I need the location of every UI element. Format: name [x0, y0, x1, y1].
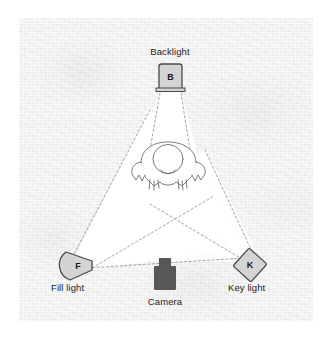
camera-label: Camera — [148, 297, 182, 307]
key-light-code-glyph: K — [247, 261, 254, 270]
backlight-label: Backlight — [150, 47, 189, 57]
backlight-code-glyph: B — [167, 73, 174, 82]
camera-body[interactable] — [154, 266, 176, 290]
fill-light-label: Fill light — [51, 283, 84, 293]
subject-head — [153, 145, 183, 174]
camera-lens — [159, 258, 171, 267]
backlight-base — [156, 88, 185, 92]
figure-canvas: Backlight Fill light Key light Camera B … — [0, 0, 332, 350]
key-light-label: Key light — [228, 283, 265, 293]
fill-light-code-glyph: F — [75, 262, 81, 271]
